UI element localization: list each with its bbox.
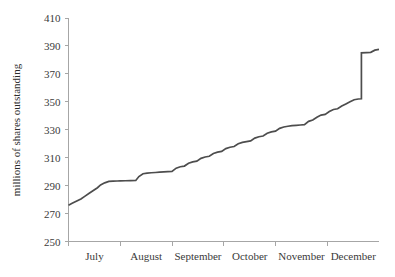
line-chart: 250270290310330350370390410 millions of …: [0, 0, 395, 277]
y-tick-label: 390: [44, 40, 61, 52]
chart-container: 250270290310330350370390410 millions of …: [0, 0, 395, 277]
x-axis-tick-labels: JulyAugustSeptemberOctoberNovemberDecemb…: [85, 250, 376, 262]
x-axis-ticks: [69, 242, 328, 246]
y-tick-label: 350: [44, 96, 61, 108]
y-tick-label: 330: [44, 124, 61, 136]
y-tick-label: 370: [44, 68, 61, 80]
y-tick-label: 410: [44, 12, 61, 24]
y-axis-title: millions of shares outstanding: [10, 63, 22, 196]
x-tick-label: November: [278, 250, 325, 262]
y-axis: 250270290310330350370390410 millions of …: [10, 12, 69, 248]
y-axis-tick-labels: 250270290310330350370390410: [44, 12, 61, 248]
x-tick-label: July: [85, 250, 104, 262]
x-tick-label: August: [130, 250, 162, 262]
y-tick-label: 270: [44, 208, 61, 220]
x-axis: JulyAugustSeptemberOctoberNovemberDecemb…: [69, 242, 380, 262]
x-tick-label: September: [174, 250, 221, 262]
x-tick-label: December: [331, 250, 377, 262]
series-line-shares-outstanding: [69, 49, 380, 205]
y-axis-ticks: [65, 18, 69, 242]
y-tick-label: 290: [44, 180, 61, 192]
plot-area: [69, 49, 380, 205]
y-tick-label: 310: [44, 152, 61, 164]
y-tick-label: 250: [44, 236, 61, 248]
x-tick-label: October: [232, 250, 268, 262]
